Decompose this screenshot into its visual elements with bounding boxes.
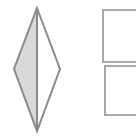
rhombus-right-half [37, 8, 60, 131]
figure-svg [0, 0, 136, 138]
rhombus-left-half [14, 8, 37, 131]
upper-rectangle [103, 10, 136, 62]
lower-rectangle [105, 66, 136, 115]
figure-canvas [0, 0, 136, 138]
